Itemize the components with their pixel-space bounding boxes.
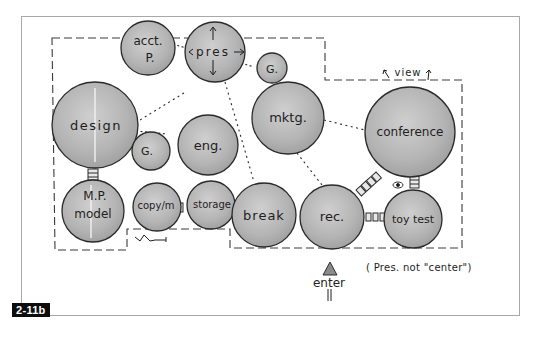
enter-arrow-icon: [323, 262, 337, 275]
figure-number-label: 2-11b: [12, 303, 50, 317]
bubble-acct: [121, 21, 175, 75]
label-mktg: mktg.: [269, 110, 307, 125]
enter-annotation: enter: [313, 262, 345, 301]
label-acct-sub: P.: [145, 51, 154, 65]
view-arrow-right-icon: [426, 70, 431, 80]
label-model: model: [74, 207, 111, 221]
label-pres: pres: [196, 45, 230, 59]
label-acct: acct.: [133, 34, 162, 48]
dotted-connections: [136, 44, 365, 185]
label-copy: copy/m: [138, 200, 175, 211]
label-g-left: G.: [141, 145, 153, 158]
label-g-top: G.: [266, 63, 278, 76]
label-break: break: [243, 208, 285, 223]
label-toytest: toy test: [392, 213, 435, 226]
label-view: view: [394, 67, 421, 78]
label-model-sub: M.P.: [83, 189, 106, 203]
label-rec: rec.: [320, 209, 344, 224]
bubble-diagram: acct. P. pres G. design G. eng. mktg. co…: [0, 0, 539, 337]
view-arrow-left-icon: [383, 70, 389, 78]
label-eng: eng.: [194, 138, 223, 153]
label-enter: enter: [313, 276, 345, 290]
label-design: design: [70, 118, 122, 133]
squiggle-icon: [135, 235, 166, 242]
eye-icon: [393, 182, 403, 188]
label-storage: storage: [193, 199, 231, 210]
view-annotation: view: [383, 67, 431, 80]
label-conference: conference: [377, 125, 444, 139]
label-note: ( Pres. not "center"): [366, 262, 472, 273]
